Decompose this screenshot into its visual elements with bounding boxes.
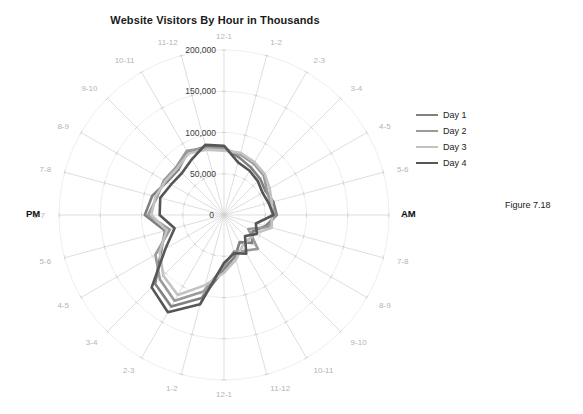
hour-axis-label: 3-4 [86, 338, 98, 347]
hour-axis-label: 9-10 [351, 338, 368, 347]
hour-axis-label: 10-11 [115, 56, 135, 65]
legend-item-label: Day 2 [443, 126, 467, 136]
hour-axis-label: 12-1 [216, 32, 233, 41]
radial-tick-label: 150,000 [185, 86, 216, 96]
hour-axis-label: 12-1 [216, 390, 233, 399]
legend-color-swatch [416, 162, 438, 164]
radial-tick-label: 0 [209, 210, 214, 220]
legend-item-label: Day 4 [443, 158, 467, 168]
radar-chart-plot: 050,000100,000150,000200,000 12-11-22-33… [0, 0, 430, 414]
am-period-label: AM [401, 208, 416, 219]
hour-axis-label: 7-8 [40, 165, 52, 174]
figure-container: Website Visitors By Hour in Thousands 05… [0, 0, 583, 414]
legend-color-swatch [416, 130, 438, 132]
legend-item[interactable]: Day 2 [416, 123, 467, 139]
hour-axis-label: 8-9 [379, 301, 391, 310]
hour-axis-label: 2-3 [314, 56, 326, 65]
hour-axis-label: 8-9 [57, 122, 69, 131]
hour-axis-label: 1-2 [270, 38, 282, 47]
radial-tick-label: 50,000 [190, 169, 216, 179]
hour-axis-label: 1-2 [166, 384, 178, 393]
hour-axis-label: 11-12 [158, 38, 178, 47]
legend-item-label: Day 3 [443, 142, 467, 152]
legend-item[interactable]: Day 3 [416, 139, 467, 155]
hour-axis-label: 11-12 [270, 384, 290, 393]
hour-axis-label: 10-11 [314, 366, 334, 375]
hour-axis-label: 3-4 [351, 84, 363, 93]
legend-item[interactable]: Day 4 [416, 155, 467, 171]
polar-spokes [59, 50, 389, 380]
pm-period-label: PM [26, 208, 40, 219]
hour-axis-label: 4-5 [379, 122, 391, 131]
hour-axis-label: 4-5 [57, 301, 69, 310]
legend-item-label: Day 1 [443, 110, 467, 120]
radial-tick-label: 200,000 [185, 45, 216, 55]
legend-color-swatch [416, 146, 438, 148]
figure-caption: Figure 7.18 [505, 200, 551, 210]
hour-axis-label: 5-6 [40, 257, 52, 266]
hour-axis-label: 2-3 [123, 366, 135, 375]
chart-legend: Day 1Day 2Day 3Day 4 [416, 107, 467, 171]
hour-axis-label: 9-10 [81, 84, 98, 93]
radial-tick-label: 100,000 [185, 128, 216, 138]
legend-item[interactable]: Day 1 [416, 107, 467, 123]
legend-color-swatch [416, 114, 438, 116]
hour-axis-label: 5-6 [397, 165, 409, 174]
hour-axis-label: 7-8 [397, 257, 409, 266]
